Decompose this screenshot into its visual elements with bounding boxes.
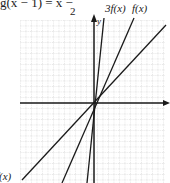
y-axis-label: y	[97, 16, 101, 26]
label-fx-medium: f(x)	[132, 2, 147, 14]
coordinate-graph	[0, 0, 170, 183]
x-axis-arrow-icon	[163, 100, 170, 106]
label-fx-shallow: f(x)	[0, 170, 11, 182]
label-3fx: 3f(x)	[105, 2, 126, 14]
